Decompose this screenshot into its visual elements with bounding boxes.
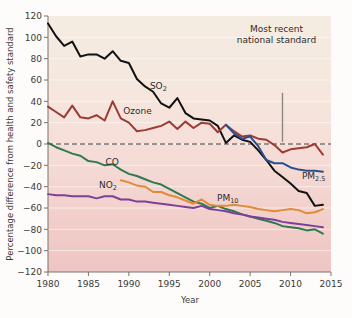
y-tick-label: 80 [31,54,43,64]
x-tick-label: 1985 [77,279,100,289]
x-tick-label: 2015 [320,279,343,289]
y-tick-label: 120 [25,11,42,21]
y-tick-label: 20 [31,118,43,128]
y-tick-label: −60 [23,203,42,213]
y-tick-label: 100 [25,33,42,43]
y-tick-label: 40 [31,97,43,107]
y-tick-label: 60 [31,75,43,85]
x-tick-label: 1995 [158,279,181,289]
y-axis-label: Percentage difference from health and sa… [5,27,15,260]
x-tick-label: 2005 [239,279,262,289]
series-label-CO: CO [105,157,118,167]
y-axis-ticks: 120100806040200−20−40−60−80−100−120 [17,11,48,277]
y-tick-label: −100 [17,246,42,256]
x-tick-label: 1990 [117,279,140,289]
y-tick-label: −40 [23,182,42,192]
line-chart: 120100806040200−20−40−60−80−100−120 1980… [0,0,352,318]
y-tick-label: −20 [23,161,42,171]
x-axis-ticks: 19801985199019952000200520102015 [37,272,343,289]
y-tick-label: −120 [17,267,42,277]
chart-figure: 120100806040200−20−40−60−80−100−120 1980… [0,0,352,318]
x-tick-label: 2010 [279,279,302,289]
y-tick-label: 0 [36,139,42,149]
y-tick-label: −80 [23,225,42,235]
x-tick-label: 2000 [198,279,221,289]
series-label-Ozone: Ozone [123,106,152,116]
x-tick-label: 1980 [37,279,60,289]
x-axis-label: Year [180,295,200,305]
